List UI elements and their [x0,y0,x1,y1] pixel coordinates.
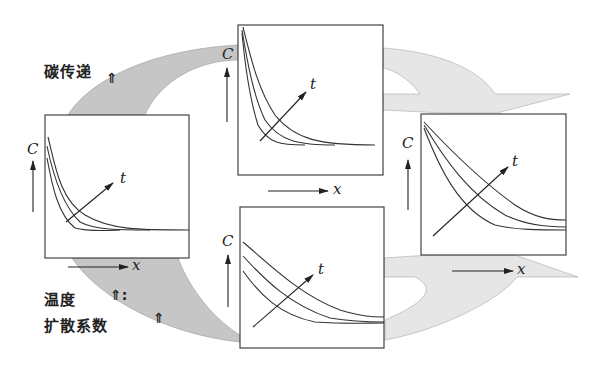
carbon-transfer-up-arrow-icon: ⇑ [106,70,118,86]
left-c-label: C [27,140,38,158]
top-t-label: t [310,75,316,93]
top-c-label: C [222,45,233,63]
carbon-transfer-label: 碳传递 [44,60,92,81]
top-x-label: x [333,180,341,198]
temperature-label: 温度 [44,288,76,309]
carbon-transfer-band [68,45,238,115]
left-t-label: t [120,169,126,187]
bottom-t-label: t [318,260,324,278]
bottom-c-label: C [222,232,233,250]
right-x-label: x [517,260,525,278]
temperature-up-arrow-icon: ⇑: [110,287,127,303]
top-panel [227,25,383,191]
diffusion-coefficient-label: 扩散系数 [44,314,108,335]
bottom-right-band [384,255,578,340]
diffusion-up-arrow-icon: ⇑ [153,310,165,326]
right-t-label: t [512,152,518,170]
right-panel [408,114,566,271]
bottom-panel [228,207,384,348]
left-panel [33,115,189,267]
right-c-label: C [402,134,413,152]
top-right-band [383,48,570,113]
left-x-label: x [132,256,140,274]
